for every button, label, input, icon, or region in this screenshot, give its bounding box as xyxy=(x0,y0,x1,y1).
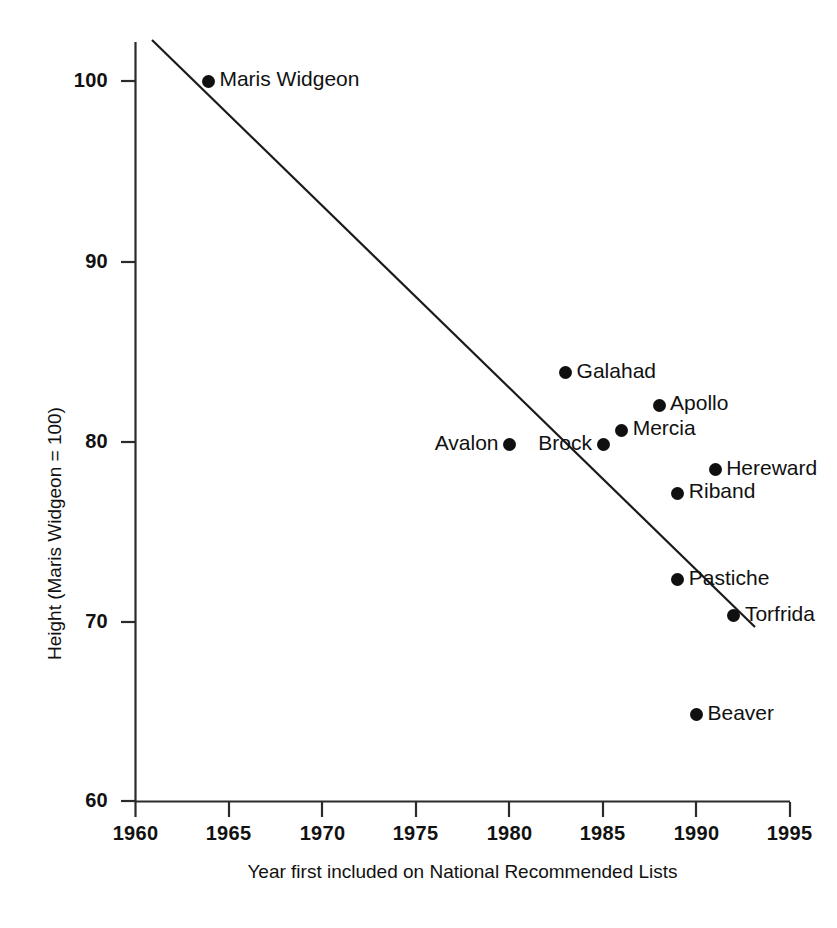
data-point-label: Mercia xyxy=(633,416,696,440)
y-tick-label-90: 90 xyxy=(44,250,108,273)
data-point-label: Beaver xyxy=(708,701,775,725)
data-point-label: Brock xyxy=(538,431,592,455)
data-point-label: Avalon xyxy=(435,431,499,455)
data-point-marker xyxy=(709,463,722,476)
x-tick-label-1975: 1975 xyxy=(375,822,456,845)
y-tick-label-100: 100 xyxy=(44,69,108,92)
data-point-marker xyxy=(653,399,666,412)
data-point-marker xyxy=(597,438,610,451)
data-point-marker xyxy=(671,487,684,500)
x-axis-ticks xyxy=(136,802,791,817)
y-axis-ticks xyxy=(121,81,135,801)
data-point-label: Apollo xyxy=(670,391,728,415)
data-point-label: Maris Widgeon xyxy=(219,67,359,91)
data-point-label: Galahad xyxy=(577,359,656,383)
data-point-marker xyxy=(690,708,703,721)
y-axis-title: Height (Maris Widgeon = 100) xyxy=(44,407,66,660)
x-tick-label-1965: 1965 xyxy=(188,822,269,845)
x-tick-label-1960: 1960 xyxy=(95,822,176,845)
x-tick-label-1985: 1985 xyxy=(562,822,643,845)
data-point-label: Hereward xyxy=(726,456,817,480)
x-tick-label-1980: 1980 xyxy=(469,822,550,845)
y-tick-label-60: 60 xyxy=(44,789,108,812)
data-point-label: Riband xyxy=(689,479,756,503)
x-tick-label-1995: 1995 xyxy=(749,822,830,845)
data-point-label: Pastiche xyxy=(689,566,770,590)
x-axis-title: Year first included on National Recommen… xyxy=(135,861,790,883)
data-point-label: Torfrida xyxy=(745,602,815,626)
regression-trend-line xyxy=(152,40,755,627)
x-tick-label-1970: 1970 xyxy=(282,822,363,845)
data-point-marker xyxy=(503,438,516,451)
data-point-marker xyxy=(202,75,215,88)
data-point-marker xyxy=(615,424,628,437)
scatter-chart-figure: 100 90 80 70 60 1960 1965 1970 1975 1980… xyxy=(0,0,837,928)
x-tick-label-1990: 1990 xyxy=(656,822,737,845)
